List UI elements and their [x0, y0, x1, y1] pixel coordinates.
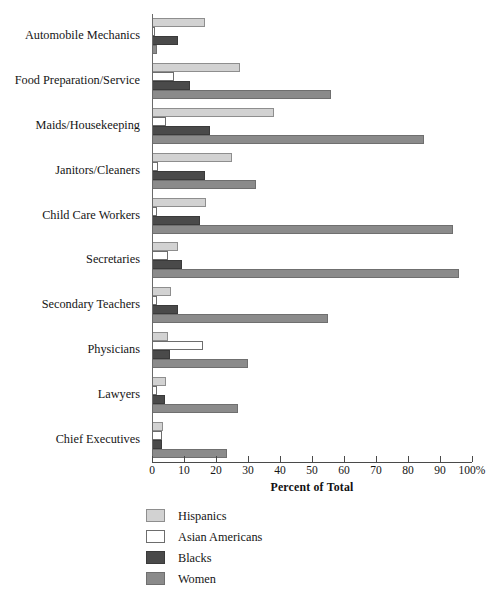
- x-axis-tick: [248, 456, 249, 462]
- bar: [152, 180, 256, 189]
- bar: [152, 314, 328, 323]
- category-label: Food Preparation/Service: [0, 74, 140, 87]
- bar: [152, 72, 174, 81]
- bar-group: [152, 14, 472, 59]
- bar: [152, 242, 178, 251]
- bar-group: [152, 193, 472, 238]
- bar-group: [152, 104, 472, 149]
- bar-group: [152, 372, 472, 417]
- x-axis-tick: [344, 456, 345, 462]
- bar-group: [152, 148, 472, 193]
- bar: [152, 350, 170, 359]
- legend-swatch-icon: [146, 551, 165, 564]
- bar-group: [152, 328, 472, 373]
- bar: [152, 440, 162, 449]
- legend-swatch-icon: [146, 509, 165, 522]
- bar: [152, 117, 166, 126]
- category-axis-labels: Automobile MechanicsFood Preparation/Ser…: [0, 14, 146, 462]
- legend-swatch-icon: [146, 530, 165, 543]
- x-axis-title: Percent of Total: [152, 480, 472, 495]
- bar: [152, 198, 206, 207]
- category-label: Lawyers: [0, 388, 140, 401]
- legend-item: Asian Americans: [146, 526, 406, 547]
- bar-group: [152, 238, 472, 283]
- bar-group: [152, 283, 472, 328]
- legend: HispanicsAsian AmericansBlacksWomen: [146, 505, 406, 589]
- x-axis-tick: [440, 456, 441, 462]
- bar: [152, 108, 274, 117]
- bar: [152, 135, 424, 144]
- category-label: Janitors/Cleaners: [0, 164, 140, 177]
- bar: [152, 404, 238, 413]
- bar: [152, 269, 459, 278]
- x-axis-tick: [152, 456, 153, 462]
- bar: [152, 377, 166, 386]
- bar: [152, 431, 162, 440]
- bar: [152, 395, 165, 404]
- occupation-demographics-bar-chart: Automobile MechanicsFood Preparation/Ser…: [0, 0, 494, 609]
- value-axis-line: [152, 14, 153, 462]
- x-axis-tick: [376, 456, 377, 462]
- bar: [152, 216, 200, 225]
- x-axis-tick: [280, 456, 281, 462]
- bar: [152, 63, 240, 72]
- bar-group: [152, 59, 472, 104]
- x-axis-tick: [472, 456, 473, 462]
- bar: [152, 251, 168, 260]
- bar: [152, 225, 453, 234]
- bar: [152, 126, 210, 135]
- x-axis-tick: [184, 456, 185, 462]
- legend-label: Hispanics: [178, 509, 227, 523]
- bar: [152, 287, 171, 296]
- bars-container: [152, 14, 472, 462]
- bar: [152, 359, 248, 368]
- legend-label: Women: [178, 572, 216, 586]
- bar: [152, 153, 232, 162]
- bar: [152, 36, 178, 45]
- x-axis-tick-label: 100%: [448, 464, 494, 477]
- bar: [152, 332, 168, 341]
- x-axis-line: [152, 462, 472, 463]
- bar: [152, 171, 205, 180]
- x-axis-tick: [408, 456, 409, 462]
- bar: [152, 81, 190, 90]
- category-label: Physicians: [0, 343, 140, 356]
- category-label: Maids/Housekeeping: [0, 119, 140, 132]
- bar: [152, 341, 203, 350]
- category-label: Chief Executives: [0, 433, 140, 446]
- category-label: Secretaries: [0, 253, 140, 266]
- bar: [152, 18, 205, 27]
- legend-item: Hispanics: [146, 505, 406, 526]
- bar: [152, 90, 331, 99]
- bar: [152, 422, 163, 431]
- legend-label: Blacks: [178, 551, 211, 565]
- legend-item: Women: [146, 568, 406, 589]
- legend-item: Blacks: [146, 547, 406, 568]
- x-axis-tick: [216, 456, 217, 462]
- plot-area: Automobile MechanicsFood Preparation/Ser…: [0, 0, 494, 470]
- x-axis-tick: [312, 456, 313, 462]
- bar: [152, 260, 182, 269]
- category-label: Child Care Workers: [0, 209, 140, 222]
- category-label: Automobile Mechanics: [0, 29, 140, 42]
- category-label: Secondary Teachers: [0, 298, 140, 311]
- bar: [152, 305, 178, 314]
- legend-swatch-icon: [146, 572, 165, 585]
- legend-label: Asian Americans: [178, 530, 262, 544]
